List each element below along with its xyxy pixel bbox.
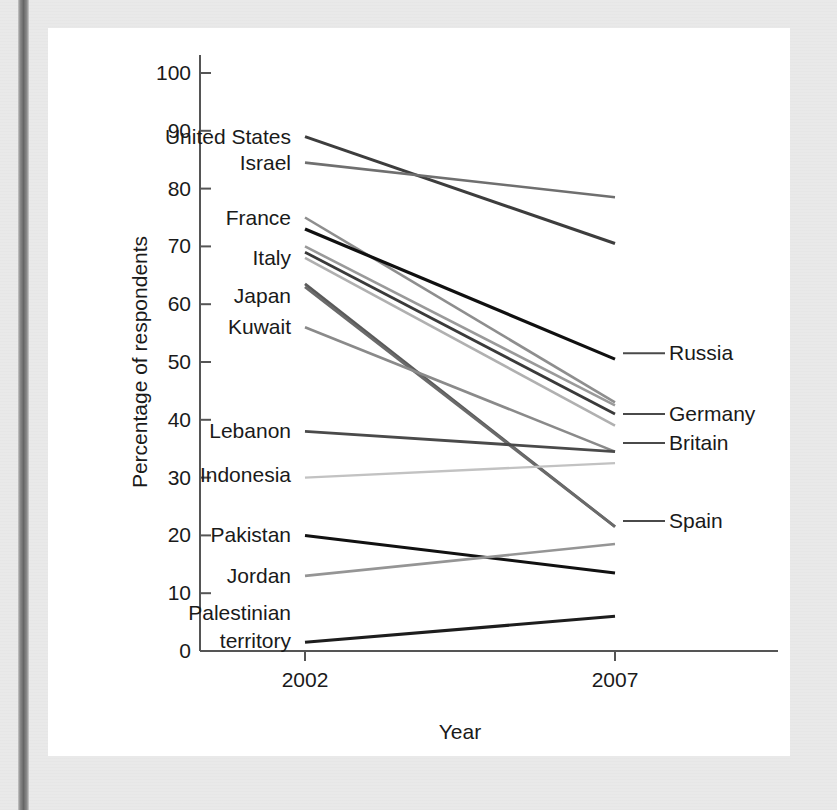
series-line (305, 137, 615, 244)
series-line (305, 544, 615, 576)
series-label-right: Britain (669, 431, 729, 454)
x-tick-label: 2007 (592, 668, 639, 691)
y-tick-label: 100 (156, 61, 191, 84)
series-line (305, 463, 615, 477)
series-label-left: Israel (240, 151, 291, 174)
page-gutter-bar (18, 0, 29, 810)
series-label-right: Germany (669, 402, 756, 425)
y-tick-label: 30 (168, 466, 191, 489)
y-tick-label: 50 (168, 350, 191, 373)
series-label-left: France (226, 206, 291, 229)
series-label-left: Indonesia (200, 463, 291, 486)
chart-label-leaders (623, 353, 665, 521)
y-tick-label: 60 (168, 292, 191, 315)
y-tick-label: 0 (179, 639, 191, 662)
y-tick-label: 20 (168, 523, 191, 546)
series-line (305, 616, 615, 642)
series-label-left: Palestinian (188, 601, 291, 624)
x-tick-label: 2002 (282, 668, 329, 691)
series-label-right: Spain (669, 509, 723, 532)
series-line (305, 431, 615, 451)
y-tick-label: 70 (168, 234, 191, 257)
chart-series-labels: United StatesIsraelFranceItalyJapanKuwai… (165, 125, 756, 652)
line-chart: 010203040506070809010020022007 United St… (48, 28, 790, 756)
series-line (305, 246, 615, 405)
series-label-left: Kuwait (228, 315, 291, 338)
chart-series-lines (305, 137, 615, 643)
figure-panel: 010203040506070809010020022007 United St… (48, 28, 790, 756)
series-line (305, 218, 615, 403)
series-label-left: Italy (252, 246, 291, 269)
series-label-left: Jordan (227, 564, 291, 587)
series-line (305, 163, 615, 198)
y-tick-label: 80 (168, 177, 191, 200)
series-label-left: Japan (234, 284, 291, 307)
y-axis-title: Percentage of respondents (128, 236, 151, 488)
series-line (305, 535, 615, 573)
x-axis-title: Year (439, 720, 481, 743)
series-line (305, 287, 615, 527)
series-label-left: United States (165, 125, 291, 148)
series-line (305, 258, 615, 426)
series-label-left: Lebanon (209, 419, 291, 442)
series-label-right: Russia (669, 341, 734, 364)
series-line (305, 229, 615, 359)
series-label-left: Pakistan (210, 523, 291, 546)
series-label-left: territory (220, 629, 292, 652)
y-tick-label: 40 (168, 408, 191, 431)
